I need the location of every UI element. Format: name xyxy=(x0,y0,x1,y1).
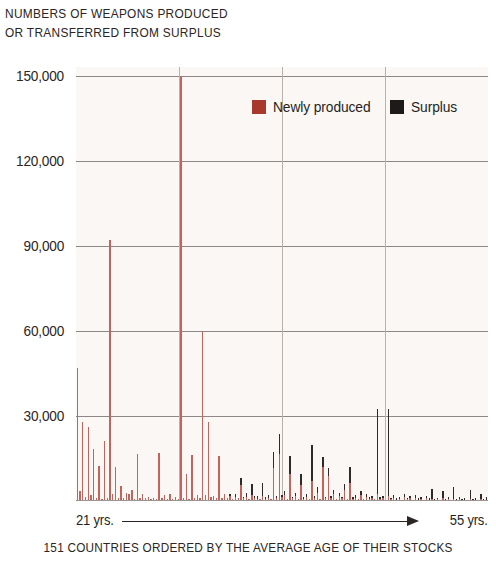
chart-bar xyxy=(467,67,468,501)
chart-bar xyxy=(93,67,94,501)
x-axis-baseline xyxy=(76,500,488,501)
bar-segment-newly-produced xyxy=(93,449,94,501)
bar-segment-surplus xyxy=(420,497,421,499)
chart-bar xyxy=(257,67,258,501)
chart-bar xyxy=(377,67,378,501)
chart-bar xyxy=(415,67,416,501)
chart-bar xyxy=(142,67,143,501)
bar-segment-newly-produced xyxy=(279,454,280,501)
chart-bar xyxy=(420,67,421,501)
chart-bar xyxy=(281,67,282,501)
chart-bar xyxy=(314,67,315,501)
chart-bar xyxy=(112,67,113,501)
bar-segment-newly-produced xyxy=(77,368,78,501)
x-axis-caption-text: 151 COUNTRIES ORDERED BY THE AVERAGE AGE… xyxy=(43,540,452,555)
chart-bar xyxy=(486,67,487,501)
bar-segment-surplus xyxy=(349,467,350,483)
bar-segment-surplus xyxy=(265,497,266,499)
chart-bar xyxy=(150,67,151,501)
chart-bar xyxy=(396,67,397,501)
chart-bar xyxy=(369,67,370,501)
chart-bar xyxy=(336,67,337,501)
bar-segment-surplus xyxy=(442,491,443,499)
chart-bar xyxy=(363,67,364,501)
y-axis-tick-label: 120,000 xyxy=(16,153,64,169)
chart-bar xyxy=(79,67,80,501)
chart-bar xyxy=(90,67,91,501)
chart-bar xyxy=(328,67,329,501)
bar-segment-surplus xyxy=(366,494,367,497)
chart-bar xyxy=(153,67,154,501)
chart-bar xyxy=(137,67,138,501)
bar-segment-surplus xyxy=(344,484,345,490)
chart-bar xyxy=(134,67,135,501)
x-axis-end-label: 55 yrs. xyxy=(450,512,488,528)
chart-figure: NUMBERS OF WEAPONS PRODUCED OR TRANSFERR… xyxy=(0,0,496,569)
chart-bar xyxy=(322,67,323,501)
chart-bar xyxy=(104,67,105,501)
chart-bar xyxy=(172,67,173,501)
chart-bar xyxy=(393,67,394,501)
chart-bar xyxy=(309,67,310,501)
bar-segment-surplus xyxy=(415,495,416,498)
chart-bar xyxy=(268,67,269,501)
bar-segment-surplus xyxy=(262,483,263,496)
bar-segment-surplus xyxy=(281,495,282,498)
bar-segment-surplus xyxy=(388,409,389,496)
chart-bar xyxy=(355,67,356,501)
chart-bar xyxy=(148,67,149,501)
chart-bar xyxy=(399,67,400,501)
chart-bar xyxy=(287,67,288,501)
chart-bar xyxy=(349,67,350,501)
chart-bar xyxy=(115,67,116,501)
bar-segment-newly-produced xyxy=(218,456,219,501)
chart-bar xyxy=(289,67,290,501)
bar-segment-newly-produced xyxy=(120,486,121,501)
bar-segment-surplus xyxy=(470,490,471,499)
chart-bar xyxy=(300,67,301,501)
chart-bar xyxy=(412,67,413,501)
bar-segment-surplus xyxy=(328,468,329,476)
bar-segment-surplus xyxy=(341,497,342,498)
chart-bar xyxy=(382,67,383,501)
chart-bar xyxy=(210,67,211,501)
bar-segment-newly-produced xyxy=(191,455,192,501)
chart-bar xyxy=(145,67,146,501)
chart-bar xyxy=(235,67,236,501)
chart-bar xyxy=(339,67,340,501)
chart-bar xyxy=(178,67,179,501)
chart-bar xyxy=(126,67,127,501)
x-axis-caption: 151 COUNTRIES ORDERED BY THE AVERAGE AGE… xyxy=(0,540,496,555)
bar-segment-surplus xyxy=(355,495,356,498)
bar-segment-surplus xyxy=(273,452,274,468)
chart-bar xyxy=(262,67,263,501)
bar-segment-newly-produced xyxy=(202,331,203,501)
chart-bar xyxy=(360,67,361,501)
chart-bar xyxy=(404,67,405,501)
chart-bar xyxy=(352,67,353,501)
bar-segment-surplus xyxy=(333,490,334,494)
chart-bar xyxy=(107,67,108,501)
chart-bar xyxy=(325,67,326,501)
x-axis-start-label: 21 yrs. xyxy=(76,512,114,528)
chart-bar xyxy=(461,67,462,501)
chart-bar xyxy=(279,67,280,501)
chart-bar xyxy=(298,67,299,501)
bar-segment-newly-produced xyxy=(349,483,350,501)
bar-segment-surplus xyxy=(480,494,481,500)
chart-bar xyxy=(259,67,260,501)
bar-segment-newly-produced xyxy=(137,454,138,501)
chart-bar xyxy=(426,67,427,501)
chart-bar xyxy=(284,67,285,501)
bar-segment-newly-produced xyxy=(158,453,159,501)
legend-swatch-surplus xyxy=(390,100,404,114)
chart-bar xyxy=(243,67,244,501)
chart-bar xyxy=(131,67,132,501)
chart-bar xyxy=(98,67,99,501)
bar-segment-surplus xyxy=(303,497,304,498)
bar-segment-surplus xyxy=(453,487,454,500)
chart-bar xyxy=(88,67,89,501)
chart-bar xyxy=(82,67,83,501)
chart-bar xyxy=(183,67,184,501)
chart-legend: Newly produced Surplus xyxy=(252,99,459,115)
